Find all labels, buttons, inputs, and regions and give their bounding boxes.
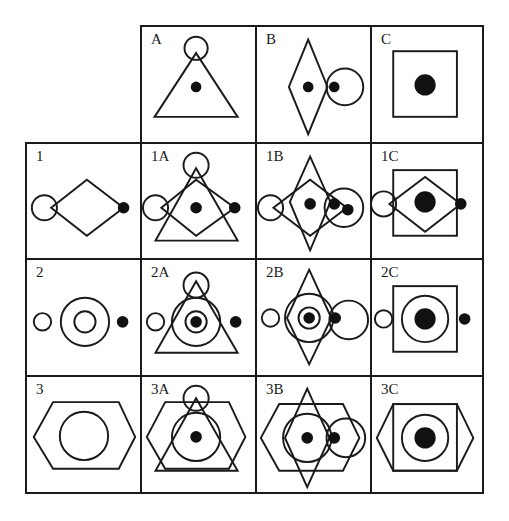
cell-1A: 1A <box>140 142 257 260</box>
cell-3B: 3B <box>255 375 372 494</box>
square-icon <box>372 27 482 142</box>
combined-3A-icon <box>142 377 255 492</box>
triangle-icon <box>142 27 255 142</box>
diamond-icon <box>257 27 370 142</box>
combined-3B-icon <box>257 377 370 492</box>
cell-3: 3 <box>25 375 142 494</box>
concentric-circles-icon <box>27 260 140 375</box>
cell-B: B <box>255 25 372 144</box>
cell-3A: 3A <box>140 375 257 494</box>
cell-2A: 2A <box>140 258 257 377</box>
combined-2B-icon <box>257 260 370 375</box>
combined-1C-icon <box>372 144 482 258</box>
cell-3C: 3C <box>370 375 484 494</box>
cell-2: 2 <box>25 258 142 377</box>
cell-1: 1 <box>25 142 142 260</box>
hexagon-icon <box>27 377 140 492</box>
combined-1A-icon <box>142 144 255 258</box>
cell-A: A <box>140 25 257 144</box>
combined-2A-icon <box>142 260 255 375</box>
horizontal-diamond-icon <box>27 144 140 258</box>
cell-2C: 2C <box>370 258 484 377</box>
cell-C: C <box>370 25 484 144</box>
combined-2C-icon <box>372 260 482 375</box>
cell-2B: 2B <box>255 258 372 377</box>
combined-3C-icon <box>372 377 482 492</box>
cell-1C: 1C <box>370 142 484 260</box>
combined-1B-icon <box>257 144 370 258</box>
cell-1B: 1B <box>255 142 372 260</box>
